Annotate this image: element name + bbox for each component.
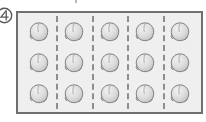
peach-fruit-icon: [97, 50, 123, 76]
peach-fruit-icon: [132, 81, 158, 107]
fruit-cell: [21, 47, 56, 78]
peach-fruit-icon: [61, 81, 87, 107]
peach-fruit-icon: [167, 50, 193, 76]
fruit-row-2: [21, 47, 198, 78]
peach-fruit-icon: [61, 19, 87, 45]
fruit-tray: [16, 11, 203, 114]
top-tick-mark: [75, 0, 77, 3]
peach-fruit-icon: [26, 81, 52, 107]
peach-fruit-icon: [132, 50, 158, 76]
fruit-cell: [127, 78, 162, 109]
fruit-cell: [56, 78, 91, 109]
fruit-cell: [163, 16, 198, 47]
tray-interior: [21, 16, 198, 109]
fruit-cell: [21, 16, 56, 47]
fruit-row-1: [21, 16, 198, 47]
fruit-cell: [92, 47, 127, 78]
peach-fruit-icon: [167, 19, 193, 45]
fruit-cell: [92, 78, 127, 109]
peach-fruit-icon: [167, 81, 193, 107]
fruit-cell: [56, 16, 91, 47]
peach-fruit-icon: [26, 50, 52, 76]
peach-fruit-icon: [97, 81, 123, 107]
fruit-cell: [92, 16, 127, 47]
figure-canvas: [0, 0, 206, 122]
fruit-cell: [127, 47, 162, 78]
fruit-cell: [56, 47, 91, 78]
fruit-cell: [127, 16, 162, 47]
peach-fruit-icon: [26, 19, 52, 45]
peach-fruit-icon: [97, 19, 123, 45]
peach-fruit-icon: [61, 50, 87, 76]
fruit-cell: [21, 78, 56, 109]
fruit-row-3: [21, 78, 198, 109]
peach-fruit-icon: [132, 19, 158, 45]
fruit-cell: [163, 47, 198, 78]
fruit-cell: [163, 78, 198, 109]
circled-four-icon: [0, 7, 13, 24]
